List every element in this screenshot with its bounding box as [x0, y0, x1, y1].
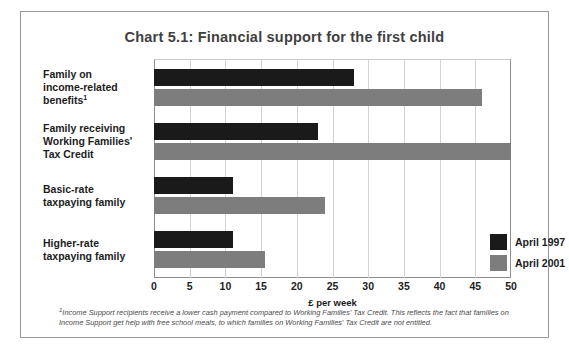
category-label-line: income-related: [43, 81, 151, 94]
category-axis-labels: Family on income-related benefits1 Famil…: [43, 59, 151, 278]
x-axis-tick-label: 30: [362, 280, 374, 292]
x-axis-tick-label: 35: [398, 280, 410, 292]
category-label-line: taxpaying family: [43, 250, 151, 263]
bar: [154, 143, 511, 160]
x-axis-tick-label: 5: [187, 280, 193, 292]
x-axis-label: £ per week: [154, 297, 511, 308]
category-label-line: Higher-rate: [43, 237, 151, 250]
x-axis-tick-label: 25: [327, 280, 339, 292]
x-axis-tick-label: 40: [434, 280, 446, 292]
category-label-line: taxpaying family: [43, 196, 151, 209]
category-label-higher-rate-taxpaying-family: Higher-rate taxpaying family: [43, 228, 151, 272]
x-axis-tick-label: 0: [151, 280, 157, 292]
bar-group: [154, 119, 511, 163]
plot-area: April 1997 April 2001: [154, 59, 511, 278]
x-axis-tick-label: 45: [469, 280, 481, 292]
legend-swatch-icon: [490, 255, 507, 271]
legend-swatch-icon: [490, 234, 507, 250]
x-axis-tick-label: 15: [255, 280, 267, 292]
bar: [154, 231, 233, 248]
bar-group: [154, 228, 511, 272]
x-axis-tick-label: 20: [291, 280, 303, 292]
chart-legend: April 1997 April 2001: [490, 234, 565, 271]
legend-item-april-1997: April 1997: [490, 234, 565, 250]
footnote-text: Income Support recipients receive a lowe…: [59, 308, 509, 327]
category-label-line: Basic-rate: [43, 183, 151, 196]
bar-group: [154, 174, 511, 218]
category-label-line: Tax Credit: [43, 148, 151, 161]
bar-groups: [154, 59, 511, 278]
x-axis-tick-label: 50: [505, 280, 517, 292]
chart-page: Chart 5.1: Financial support for the fir…: [0, 0, 569, 349]
category-label-working-families-tax-credit: Family receiving Working Families' Tax C…: [43, 119, 151, 163]
category-label-basic-rate-taxpaying-family: Basic-rate taxpaying family: [43, 174, 151, 218]
chart-footnote: 1Income Support recipients receive a low…: [59, 308, 529, 328]
category-label-income-related-benefits: Family on income-related benefits1: [43, 65, 151, 109]
legend-label: April 1997: [515, 236, 565, 248]
x-axis-ticks: 05101520253035404550: [154, 280, 511, 296]
chart-title: Chart 5.1: Financial support for the fir…: [21, 29, 548, 45]
bar: [154, 89, 482, 106]
category-label-line: benefits1: [43, 94, 151, 107]
bar-group: [154, 65, 511, 109]
category-label-line: Family on: [43, 68, 151, 81]
footnote-marker: 1: [83, 93, 87, 100]
bar: [154, 177, 233, 194]
x-axis-tick-label: 10: [220, 280, 232, 292]
bar: [154, 123, 318, 140]
legend-label: April 2001: [515, 257, 565, 269]
bar: [154, 251, 265, 268]
category-label-line: Working Families': [43, 135, 151, 148]
legend-item-april-2001: April 2001: [490, 255, 565, 271]
bar: [154, 69, 354, 86]
category-label-line: Family receiving: [43, 122, 151, 135]
bar: [154, 197, 325, 214]
chart-frame: Chart 5.1: Financial support for the fir…: [20, 11, 549, 338]
